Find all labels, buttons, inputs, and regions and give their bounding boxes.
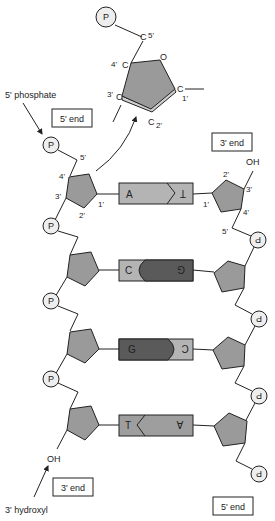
bp1-left-base: A: [126, 189, 133, 200]
base-pair-4: T A: [99, 415, 214, 436]
bp3-left-base: G: [128, 344, 136, 355]
left-bond-p4: [58, 383, 78, 409]
right-bond-s2: [245, 247, 254, 266]
bp1-right-bond: [193, 193, 212, 194]
right-c1-label: 1': [203, 200, 209, 209]
five-phosphate-arrow: [23, 103, 42, 134]
inset-phosphate-label: P: [103, 12, 109, 22]
left-bond-3p: [55, 198, 66, 220]
right-c2-label: 2': [223, 170, 229, 179]
inset-c2: C: [148, 117, 155, 127]
bp4-right-base: A: [176, 419, 183, 430]
left-phosphate-3-label: P: [48, 296, 54, 306]
right-phosphate-2-label: P: [256, 314, 262, 324]
bp1-right-base: T: [180, 188, 186, 199]
inset-c3-bond: [113, 105, 121, 122]
base-pair-1: A T: [97, 183, 212, 204]
left-sugar-2: [67, 252, 99, 286]
right-phosphate-3-label: P: [256, 391, 262, 401]
left-c4-label: 4': [59, 172, 65, 181]
left-phosphate-2-label: P: [48, 221, 54, 231]
left-backbone: P 5' 4' 3' 2' 1' P P P OH: [43, 137, 104, 464]
five-end-right: 5' end: [221, 502, 245, 512]
bp2-left-base: C: [125, 265, 132, 276]
right-phosphate-4-label: P: [256, 469, 262, 479]
three-hydroxyl-arrow: [34, 466, 48, 497]
right-oh: OH: [246, 157, 260, 167]
bp2-right-base: G: [177, 264, 185, 275]
right-bond-s3: [245, 326, 255, 345]
right-backbone: OH 2' 3' 4' 5' 1' P P P P: [203, 157, 267, 482]
dna-diagram: P C 5' O C 4' C 3' C 2' C 1' 5' phosphat…: [0, 0, 275, 521]
right-bond-s4: [245, 403, 255, 422]
three-hydroxyl-label: 3' hydroxyl: [5, 505, 48, 515]
right-bond-p3: [235, 366, 252, 391]
left-bond-s3: [55, 354, 67, 375]
bp4-right-bond: [193, 425, 214, 426]
right-c5-label: 5': [222, 227, 228, 236]
five-phosphate-label: 5' phosphate: [5, 90, 56, 100]
base-pair-3: G C: [99, 339, 213, 360]
bp3-right-bond: [193, 349, 213, 350]
right-c3-label: 3': [246, 185, 252, 194]
left-bond-oh: [57, 430, 67, 449]
base-pair-2: C G: [99, 260, 214, 281]
inset-oxygen: O: [160, 52, 167, 62]
right-sugar-3: [213, 337, 245, 369]
right-sugar-1: [212, 180, 244, 212]
inset-c3-label: 3': [107, 90, 113, 99]
right-sugar-4: [214, 413, 247, 446]
left-sugar-3: [67, 329, 99, 363]
right-phosphate-1-label: P: [255, 235, 261, 245]
inset-c5-bond: [131, 41, 143, 63]
left-bond-p3: [58, 306, 78, 331]
left-phosphate-4-label: P: [48, 374, 54, 384]
left-sugar-1: [66, 174, 97, 208]
inset-c5-label: 5': [148, 31, 154, 40]
right-bond-p2: [235, 288, 252, 314]
left-c1-label: 1': [98, 200, 104, 209]
left-sugar-4: [67, 406, 99, 440]
left-bond-s2: [55, 277, 67, 297]
right-c4-label: 4': [243, 208, 249, 217]
zoom-arrow: [96, 117, 136, 171]
ribose-inset: P C 5' O C 4' C 3' C 2' C 1': [96, 7, 204, 130]
three-end-left: 3' end: [61, 483, 85, 493]
inset-p-bond: [115, 25, 142, 37]
left-c5-label: 5': [80, 153, 86, 162]
inset-c1: C: [177, 84, 184, 94]
inset-c4: C: [122, 60, 129, 70]
bp4-left-base: T: [125, 420, 131, 431]
inset-c3: C: [116, 92, 123, 102]
left-bond-p2: [58, 231, 78, 255]
inset-c2-label: 2': [156, 121, 162, 130]
right-sugar-2: [214, 261, 245, 292]
inset-c5: C: [140, 32, 147, 42]
right-bond-p4: [236, 443, 252, 469]
inset-c4-label: 4': [111, 60, 117, 69]
three-end-right: 3' end: [220, 138, 244, 148]
left-c3-label: 3': [55, 192, 61, 201]
bp3-right-base: C: [181, 343, 188, 354]
inset-c1-label: 1': [182, 94, 188, 103]
bp2-right-bond: [193, 270, 214, 272]
five-end-left: 5' end: [60, 114, 84, 124]
left-phosphate-1-label: P: [48, 140, 54, 150]
left-c2-label: 2': [79, 211, 85, 220]
left-oh: OH: [47, 454, 61, 464]
